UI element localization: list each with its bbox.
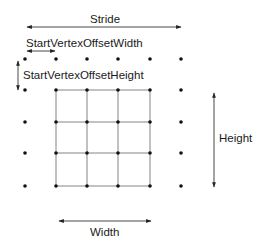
vertex-dot [85,120,89,124]
vertex-dot [54,88,58,92]
vertex-dot [179,151,183,155]
mesh-lines [56,90,150,186]
vertex-dot [54,151,58,155]
vertex-dot [148,57,152,61]
vertex-dot [85,88,89,92]
vertex-dot [54,120,58,124]
vertex-dot [23,151,27,155]
vertex-dot [23,120,27,124]
vertex-dot [23,57,27,61]
vertex-dot [85,57,89,61]
width-label: Width [90,227,119,239]
vertex-dot [179,184,183,188]
vertex-dot [148,120,152,124]
vertex-dot [179,88,183,92]
vertex-dot [116,57,120,61]
vertex-dot [116,184,120,188]
height-label: Height [219,133,252,145]
start-vertex-offset-height-label: StartVertexOffsetHeight [23,70,144,82]
vertex-dot [116,151,120,155]
vertex-dot [23,88,27,92]
vertex-dot [148,151,152,155]
vertex-dot [179,120,183,124]
start-vertex-offset-width-label: StartVertexOffsetWidth [26,38,143,50]
stride-label: Stride [90,14,120,26]
vertex-dot [116,120,120,124]
vertex-dot [54,57,58,61]
vertex-dot [148,88,152,92]
vertex-dot [116,88,120,92]
vertex-dot [23,184,27,188]
vertex-dot [85,151,89,155]
vertex-dot [85,184,89,188]
vertex-dot [179,57,183,61]
vertex-dot [54,184,58,188]
vertex-dot [148,184,152,188]
